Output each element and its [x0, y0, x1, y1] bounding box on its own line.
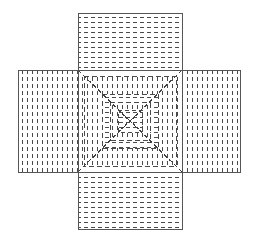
cross-net-diagram	[0, 0, 258, 244]
diagram-root	[0, 0, 258, 244]
right-flap-fill	[182, 70, 240, 172]
panel-right-flap	[182, 70, 240, 172]
bottom-flap-fill	[78, 172, 182, 229]
panel-center	[78, 70, 182, 172]
panel-bottom-flap	[78, 172, 182, 229]
top-flap-fill	[78, 13, 182, 70]
panel-left-flap	[18, 70, 78, 172]
panel-top-flap	[78, 13, 182, 70]
left-flap-fill	[18, 70, 78, 172]
